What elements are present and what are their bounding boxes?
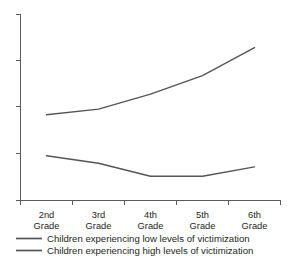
chart-canvas: 2nd Grade 3rd Grade 4th Grade 5th Grade … [0, 0, 287, 257]
legend-item-low-victimization: Children experiencing low levels of vict… [16, 233, 250, 244]
series-line-low-victimization [47, 48, 255, 115]
line-chart: 2nd Grade 3rd Grade 4th Grade 5th Grade … [0, 0, 287, 257]
x-label-grade-5-line1: 5th [196, 210, 209, 220]
legend-label-low: Children experiencing low levels of vict… [47, 233, 250, 244]
legend-item-high-victimization: Children experiencing high levels of vic… [16, 245, 253, 256]
x-label-grade-2-line2: Grade [34, 221, 60, 231]
x-axis-ticks [21, 201, 281, 206]
x-label-grade-6-line1: 6th [248, 210, 261, 220]
x-label-grade-6-line2: Grade [242, 221, 268, 231]
chart-legend: Children experiencing low levels of vict… [16, 233, 253, 256]
legend-label-high: Children experiencing high levels of vic… [47, 245, 253, 256]
y-axis-ticks [16, 15, 21, 201]
x-label-grade-5-line2: Grade [190, 221, 216, 231]
x-label-grade-2-line1: 2nd [39, 210, 55, 220]
x-axis-labels: 2nd Grade 3rd Grade 4th Grade 5th Grade … [34, 210, 268, 231]
x-label-grade-3-line1: 3rd [92, 210, 105, 220]
series-line-high-victimization [47, 156, 255, 177]
x-label-grade-4-line2: Grade [138, 221, 164, 231]
x-label-grade-3-line2: Grade [86, 221, 112, 231]
x-label-grade-4-line1: 4th [144, 210, 157, 220]
